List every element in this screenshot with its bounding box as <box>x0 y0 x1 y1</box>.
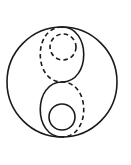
taijitu-diagram <box>0 0 131 165</box>
lower-small-circle <box>49 104 75 130</box>
upper-small-circle <box>50 34 76 60</box>
s-curve-dashed <box>40 27 84 137</box>
figure-root <box>0 0 131 165</box>
